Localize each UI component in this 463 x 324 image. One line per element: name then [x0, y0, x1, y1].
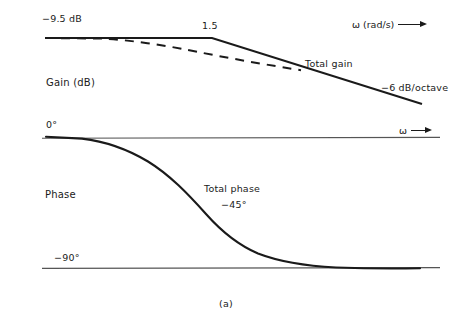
phase-zero-label: 0° — [46, 120, 57, 130]
bode-plot-figure: −9.5 dB 1.5 ω (rad/s) Total gain −6 dB/o… — [0, 0, 463, 324]
phase-y-axis-label: Phase — [45, 190, 76, 200]
gain-curve-label: Total gain — [305, 59, 353, 69]
right-arrow-icon — [398, 21, 428, 29]
phase-minus-45-label: −45° — [221, 200, 247, 210]
figure-caption: (a) — [219, 299, 233, 309]
phase-zero-axis — [42, 137, 440, 138]
gain-breakpoint-label: 1.5 — [202, 21, 218, 31]
gain-omega-axis-label-group: ω (rad/s) — [352, 20, 428, 30]
gain-slope-label: −6 dB/octave — [381, 83, 448, 93]
gain-omega-axis-label: ω (rad/s) — [352, 20, 394, 30]
gain-level-label: −9.5 dB — [42, 14, 82, 24]
gain-asymptote-line — [45, 38, 422, 104]
phase-minus-90-label: −90° — [54, 253, 80, 263]
phase-omega-axis-label-group: ω — [399, 126, 433, 136]
phase-omega-axis-label: ω — [399, 126, 407, 136]
gain-y-axis-label: Gain (dB) — [46, 78, 95, 88]
plot-canvas — [0, 0, 463, 324]
right-arrow-icon — [411, 127, 433, 135]
phase-curve-label: Total phase — [204, 184, 260, 194]
